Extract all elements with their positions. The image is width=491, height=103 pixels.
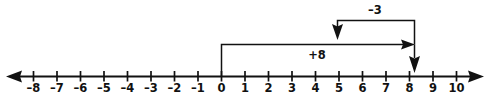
number-line-svg: –8–7–6–5–4–3–2–1012345678910 +8 –3 bbox=[0, 0, 491, 103]
tick-label-6: 6 bbox=[358, 81, 366, 95]
number-line-figure: –8–7–6–5–4–3–2–1012345678910 +8 –3 bbox=[0, 0, 491, 103]
tick-label-9: 9 bbox=[429, 81, 437, 95]
tick-label--4: –4 bbox=[121, 81, 135, 95]
tick-label-7: 7 bbox=[382, 81, 390, 95]
tick-label--1: –1 bbox=[191, 81, 205, 95]
tick-label--6: –6 bbox=[74, 81, 88, 95]
tick-label--7: –7 bbox=[50, 81, 64, 95]
tick-label-4: 4 bbox=[311, 81, 319, 95]
jump-plus-8: +8 bbox=[222, 40, 416, 77]
jump-minus-3-label: –3 bbox=[368, 3, 382, 17]
tick-label-2: 2 bbox=[264, 81, 272, 95]
axis-left-arrowhead bbox=[6, 71, 22, 83]
result-marker bbox=[409, 45, 420, 74]
tick-label-0: 0 bbox=[217, 81, 225, 95]
jump-plus-8-label: +8 bbox=[308, 48, 326, 62]
tick-label-3: 3 bbox=[288, 81, 296, 95]
axis-right-arrowhead bbox=[468, 71, 484, 83]
tick-label-5: 5 bbox=[335, 81, 343, 95]
tick-label-group: –8–7–6–5–4–3–2–1012345678910 bbox=[27, 81, 465, 95]
jump-minus-3: –3 bbox=[332, 3, 415, 45]
tick-label--8: –8 bbox=[27, 81, 41, 95]
jump-plus-8-arrowhead bbox=[401, 40, 415, 50]
tick-label-10: 10 bbox=[448, 81, 464, 95]
tick-label--3: –3 bbox=[144, 81, 158, 95]
result-marker-arrowhead bbox=[409, 56, 420, 73]
tick-label--5: –5 bbox=[97, 81, 111, 95]
tick-label--2: –2 bbox=[168, 81, 182, 95]
tick-label-8: 8 bbox=[405, 81, 413, 95]
tick-label-1: 1 bbox=[241, 81, 249, 95]
